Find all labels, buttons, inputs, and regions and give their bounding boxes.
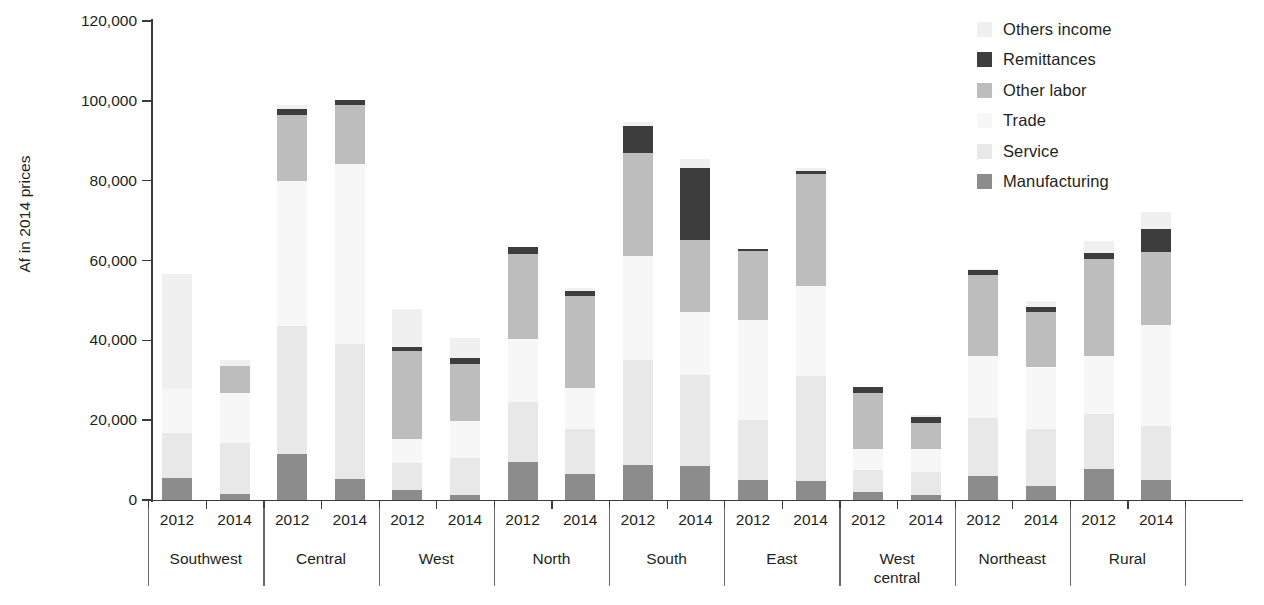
bar-segment-others-income [796, 168, 826, 171]
bar-segment-remittances [277, 109, 307, 115]
bar-segment-trade [392, 439, 422, 463]
bar-west-central-2012[interactable] [853, 21, 883, 500]
bar-central-2014[interactable] [335, 21, 365, 500]
y-axis-tick [142, 340, 151, 342]
bar-segment-others-income [277, 105, 307, 109]
bar-segment-trade [853, 449, 883, 470]
bar-segment-trade [277, 181, 307, 327]
bar-segment-service [392, 463, 422, 490]
bar-segment-others-income [623, 122, 653, 126]
y-axis-tick-label: 40,000 [51, 331, 137, 349]
x-axis-year-label: 2012 [390, 511, 424, 529]
bar-segment-manufacturing [392, 490, 422, 500]
bar-southwest-2012[interactable] [162, 21, 192, 500]
legend-item-manufacturing[interactable]: Manufacturing [977, 167, 1257, 198]
x-axis-group-divider [609, 508, 610, 586]
bar-segment-remittances [1026, 307, 1056, 311]
legend-item-others-income[interactable]: Others income [977, 14, 1257, 45]
bar-segment-manufacturing [1026, 486, 1056, 500]
bar-south-2012[interactable] [623, 21, 653, 500]
x-axis-tick [321, 500, 322, 509]
x-axis-group-divider [955, 508, 956, 586]
legend-item-other-labor[interactable]: Other labor [977, 75, 1257, 106]
x-axis-group-divider [724, 508, 725, 586]
bar-east-2014[interactable] [796, 21, 826, 500]
x-axis-year-label: 2012 [966, 511, 1000, 529]
bar-east-2012[interactable] [738, 21, 768, 500]
bar-segment-others-income [450, 338, 480, 358]
bar-segment-other-labor [335, 105, 365, 164]
bar-segment-other-labor [277, 115, 307, 181]
bar-segment-service [450, 458, 480, 495]
x-axis-year-label: 2012 [275, 511, 309, 529]
legend-swatch-icon [977, 83, 992, 98]
bar-west-central-2014[interactable] [911, 21, 941, 500]
bar-segment-other-labor [1084, 259, 1114, 356]
y-axis-tick-label: 120,000 [51, 12, 137, 30]
x-axis-year-label: 2014 [448, 511, 482, 529]
bar-segment-other-labor [1141, 252, 1171, 325]
y-axis-tick [142, 100, 151, 102]
bar-segment-remittances [1141, 229, 1171, 252]
y-axis-tick [142, 20, 151, 22]
bar-southwest-2014[interactable] [220, 21, 250, 500]
x-axis-tick [206, 500, 207, 509]
bar-segment-others-income [911, 415, 941, 417]
legend-item-service[interactable]: Service [977, 136, 1257, 167]
x-axis-year-label: 2014 [1139, 511, 1173, 529]
x-axis-region-label: East [766, 549, 797, 568]
bar-west-2012[interactable] [392, 21, 422, 500]
bar-segment-service [335, 344, 365, 480]
legend-label: Manufacturing [1003, 172, 1109, 191]
legend-label: Other labor [1003, 81, 1087, 100]
bar-west-2014[interactable] [450, 21, 480, 500]
bar-south-2014[interactable] [680, 21, 710, 500]
legend-swatch-icon [977, 174, 992, 189]
bar-segment-manufacturing [911, 495, 941, 500]
bar-segment-service [1084, 414, 1114, 469]
x-axis-region-label: Southwest [170, 549, 242, 568]
x-axis-year-label: 2014 [217, 511, 251, 529]
bar-segment-trade [335, 164, 365, 344]
x-axis-group-divider [263, 508, 264, 586]
legend-item-remittances[interactable]: Remittances [977, 45, 1257, 76]
bar-segment-other-labor [450, 364, 480, 421]
bar-segment-other-labor [911, 423, 941, 449]
bar-north-2014[interactable] [565, 21, 595, 500]
bar-segment-trade [508, 339, 538, 402]
legend-label: Service [1003, 142, 1059, 161]
bar-segment-trade [796, 286, 826, 375]
bar-segment-remittances [450, 358, 480, 364]
y-axis-tick-label: 80,000 [51, 172, 137, 190]
bar-segment-service [968, 418, 998, 476]
bar-segment-others-income [968, 269, 998, 271]
y-axis-tick [142, 419, 151, 421]
bar-segment-remittances [1084, 253, 1114, 259]
bar-segment-service [162, 433, 192, 478]
bar-segment-others-income [1084, 241, 1114, 253]
bar-segment-other-labor [220, 366, 250, 393]
bar-segment-trade [623, 256, 653, 360]
x-axis-year-label: 2012 [1081, 511, 1115, 529]
legend-swatch-icon [977, 144, 992, 159]
bar-segment-manufacturing [1084, 469, 1114, 500]
x-axis-region-label: West [419, 549, 454, 568]
bar-segment-other-labor [738, 251, 768, 320]
x-axis-tick [551, 500, 552, 509]
bar-segment-service [796, 376, 826, 481]
bar-segment-others-income [1026, 301, 1056, 307]
bar-segment-others-income [1141, 212, 1171, 229]
bar-segment-service [911, 472, 941, 495]
bar-segment-remittances [911, 417, 941, 423]
bar-segment-trade [738, 320, 768, 420]
x-axis-group-divider [379, 508, 380, 586]
bar-central-2012[interactable] [277, 21, 307, 500]
x-axis-group-divider [1185, 508, 1186, 586]
bar-segment-other-labor [565, 296, 595, 388]
legend-item-trade[interactable]: Trade [977, 106, 1257, 137]
x-axis-region-label: Central [296, 549, 346, 568]
bar-segment-other-labor [680, 240, 710, 311]
bar-segment-manufacturing [450, 495, 480, 500]
bar-segment-other-labor [796, 174, 826, 287]
bar-north-2012[interactable] [508, 21, 538, 500]
